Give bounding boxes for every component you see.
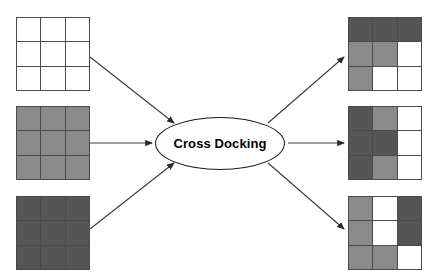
grid-cell [65, 220, 91, 246]
grid-cell [16, 17, 42, 43]
grid-cell [397, 66, 423, 92]
arrow-out-3 [268, 163, 344, 229]
outbound-pallet-3 [348, 196, 422, 270]
grid-cell [40, 220, 66, 246]
grid-cell [397, 245, 423, 271]
grid-cell [348, 245, 374, 271]
grid-cell [16, 196, 42, 222]
grid-cell [348, 41, 374, 67]
grid-cell [397, 155, 423, 181]
grid-cell [372, 41, 398, 67]
grid-cell [397, 106, 423, 132]
inbound-pallet-1 [16, 17, 90, 91]
grid-cell [40, 17, 66, 43]
cross-docking-diagram: Cross Docking [0, 0, 432, 280]
grid-cell [397, 41, 423, 67]
grid-cell [16, 245, 42, 271]
grid-cell [397, 220, 423, 246]
grid-cell [16, 220, 42, 246]
grid-cell [16, 66, 42, 92]
grid-cell [372, 66, 398, 92]
grid-cell [40, 66, 66, 92]
grid-cell [348, 106, 374, 132]
grid-cell [65, 66, 91, 92]
grid-cell [372, 155, 398, 181]
grid-cell [348, 66, 374, 92]
grid-cell [16, 155, 42, 181]
grid-cell [397, 17, 423, 43]
cross-docking-node: Cross Docking [155, 117, 285, 170]
outbound-pallet-2 [348, 106, 422, 180]
grid-cell [348, 220, 374, 246]
grid-cell [65, 106, 91, 132]
grid-cell [40, 196, 66, 222]
grid-cell [348, 130, 374, 156]
grid-cell [16, 41, 42, 67]
grid-cell [372, 17, 398, 43]
inbound-pallet-3 [16, 196, 90, 270]
grid-cell [372, 220, 398, 246]
grid-cell [348, 196, 374, 222]
grid-cell [40, 130, 66, 156]
outbound-pallet-1 [348, 17, 422, 91]
grid-cell [40, 41, 66, 67]
grid-cell [372, 106, 398, 132]
arrow-out-1 [268, 57, 344, 123]
grid-cell [372, 196, 398, 222]
grid-cell [397, 196, 423, 222]
grid-cell [397, 130, 423, 156]
grid-cell [40, 155, 66, 181]
grid-cell [65, 17, 91, 43]
grid-cell [65, 245, 91, 271]
arrow-in-1 [90, 57, 174, 123]
grid-cell [65, 130, 91, 156]
grid-cell [40, 106, 66, 132]
grid-cell [65, 155, 91, 181]
grid-cell [372, 130, 398, 156]
grid-cell [65, 41, 91, 67]
grid-cell [40, 245, 66, 271]
cross-docking-label: Cross Docking [173, 136, 266, 151]
arrow-in-3 [90, 163, 174, 229]
grid-cell [65, 196, 91, 222]
grid-cell [16, 106, 42, 132]
grid-cell [348, 17, 374, 43]
grid-cell [16, 130, 42, 156]
inbound-pallet-2 [16, 106, 90, 180]
grid-cell [348, 155, 374, 181]
grid-cell [372, 245, 398, 271]
